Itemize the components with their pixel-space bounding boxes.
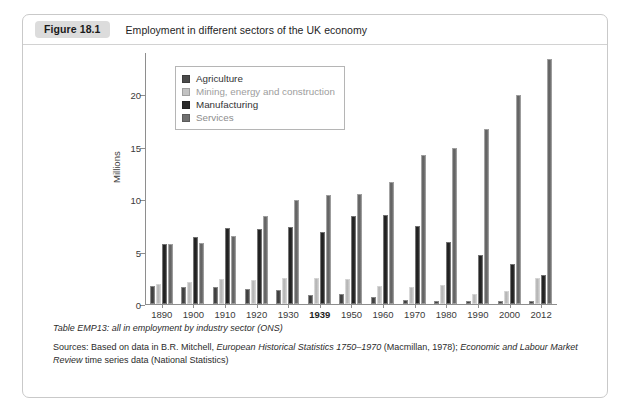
figure-title: Employment in different sectors of the U…	[126, 24, 368, 36]
bar-2000-manufacturing	[510, 264, 515, 304]
bar-group-1890: 1890	[146, 53, 178, 304]
y-tick-label: 10	[130, 195, 141, 206]
x-tick-label-1970: 1970	[404, 309, 425, 320]
figure-number-badge: Figure 18.1	[35, 21, 110, 38]
bar-1980-agriculture	[434, 301, 439, 304]
figure-header: Figure 18.1 Employment in different sect…	[23, 15, 607, 45]
bar-1990-agriculture	[466, 301, 471, 304]
x-tick-label-2012: 2012	[531, 309, 552, 320]
caption-sources: Sources: Based on data in B.R. Mitchell,…	[53, 341, 583, 367]
y-tick-label: 20	[130, 90, 141, 101]
legend-swatch-agriculture	[182, 75, 190, 83]
caption-sources-prefix: Sources: Based on data in B.R. Mitchell,	[53, 342, 217, 352]
x-tick-label-1890: 1890	[151, 309, 172, 320]
bar-group-1980: 1980	[430, 53, 462, 304]
y-tick-label: 5	[136, 247, 141, 258]
bar-1890-mining	[156, 284, 161, 304]
bar-1939-services	[326, 195, 331, 304]
x-tick-label-2000: 2000	[499, 309, 520, 320]
legend-item-manufacturing: Manufacturing	[182, 98, 335, 111]
bar-1970-agriculture	[403, 300, 408, 304]
bar-1950-mining	[345, 279, 350, 304]
bar-group-1960: 1960	[367, 53, 399, 304]
x-tick-label-1910: 1910	[214, 309, 235, 320]
y-tick-label: 15	[130, 142, 141, 153]
legend-label-services: Services	[196, 112, 234, 123]
bar-1910-agriculture	[213, 287, 218, 304]
bar-1900-mining	[187, 282, 192, 304]
caption-sources-title-1: European Historical Statistics 1750–1970	[217, 342, 382, 352]
figure-body: Millions 05101520 1890190019101920193019…	[23, 45, 607, 398]
x-tick-mark	[478, 304, 479, 308]
bar-2012-agriculture	[529, 301, 534, 304]
legend-label-agriculture: Agriculture	[196, 73, 243, 84]
figure-panel: Figure 18.1 Employment in different sect…	[22, 14, 608, 398]
legend-item-agriculture: Agriculture	[182, 72, 335, 85]
x-tick-mark	[351, 304, 352, 308]
legend-label-manufacturing: Manufacturing	[196, 99, 258, 110]
bar-1960-services	[389, 182, 394, 304]
bar-1990-services	[484, 129, 489, 304]
x-tick-mark	[383, 304, 384, 308]
chart-legend: Agriculture Mining, energy and construct…	[175, 66, 345, 130]
bar-2012-mining	[535, 278, 540, 304]
bar-1939-manufacturing	[320, 232, 325, 304]
x-tick-mark	[320, 304, 321, 308]
bar-2012-services	[547, 59, 552, 304]
x-tick-mark	[510, 304, 511, 308]
bar-1910-manufacturing	[225, 228, 230, 304]
legend-label-mining-energy-construction: Mining, energy and construction	[196, 86, 335, 97]
bar-1920-services	[263, 216, 268, 304]
x-tick-mark	[288, 304, 289, 308]
x-tick-mark	[257, 304, 258, 308]
bar-1920-agriculture	[245, 289, 250, 304]
bar-2012-manufacturing	[541, 275, 546, 304]
x-tick-label-1950: 1950	[341, 309, 362, 320]
bar-2000-services	[516, 95, 521, 304]
x-tick-mark	[225, 304, 226, 308]
x-tick-label-1900: 1900	[183, 309, 204, 320]
x-tick-label-1960: 1960	[372, 309, 393, 320]
bar-group-1990: 1990	[462, 53, 494, 304]
y-axis-title: Millions	[111, 151, 122, 183]
bar-1950-agriculture	[339, 294, 344, 304]
bar-group-1970: 1970	[399, 53, 431, 304]
bar-1890-manufacturing	[162, 244, 167, 304]
bar-1930-agriculture	[276, 290, 281, 304]
bar-1970-manufacturing	[415, 226, 420, 304]
y-tick-label: 0	[136, 300, 141, 311]
bar-2000-mining	[504, 291, 509, 304]
screenshot-root: Figure 18.1 Employment in different sect…	[0, 0, 626, 412]
bar-1900-manufacturing	[193, 237, 198, 304]
bar-1930-manufacturing	[288, 227, 293, 304]
legend-item-services: Services	[182, 111, 335, 124]
bar-1920-manufacturing	[257, 229, 262, 304]
bar-1890-agriculture	[150, 286, 155, 304]
x-tick-mark	[193, 304, 194, 308]
caption-sources-mid: (Macmillan, 1978);	[381, 342, 460, 352]
x-tick-mark	[541, 304, 542, 308]
bar-group-2000: 2000	[494, 53, 526, 304]
legend-swatch-manufacturing	[182, 101, 190, 109]
x-tick-mark	[415, 304, 416, 308]
bar-1890-services	[168, 244, 173, 304]
bar-1950-manufacturing	[351, 216, 356, 304]
bar-1910-services	[231, 236, 236, 304]
caption-block: Table EMP13: all in employment by indust…	[53, 323, 583, 367]
caption-sources-suffix: time series data (National Statistics)	[83, 355, 229, 365]
x-tick-label-1980: 1980	[436, 309, 457, 320]
bar-2000-agriculture	[498, 301, 503, 304]
bar-1930-services	[294, 200, 299, 304]
bar-1939-mining	[314, 278, 319, 304]
bar-1960-mining	[377, 286, 382, 304]
bar-1910-mining	[219, 279, 224, 304]
bar-group-2012: 2012	[525, 53, 557, 304]
caption-table-note: Table EMP13: all in employment by indust…	[53, 323, 583, 333]
x-tick-label-1939: 1939	[309, 309, 330, 320]
legend-swatch-mining-energy-construction	[182, 88, 190, 96]
x-tick-mark	[162, 304, 163, 308]
bar-1970-mining	[409, 287, 414, 304]
x-tick-mark	[446, 304, 447, 308]
x-tick-label-1930: 1930	[278, 309, 299, 320]
bar-1980-mining	[440, 285, 445, 304]
